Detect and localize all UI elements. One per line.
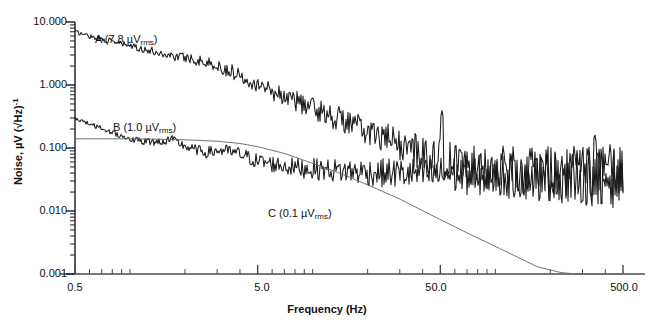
data-series-group bbox=[75, 31, 623, 274]
curve-label-a: A (7.8 µVrms) bbox=[95, 33, 157, 47]
curve-label-c-main: C (0.1 µV bbox=[268, 207, 315, 219]
curve-label-a-tail: ) bbox=[154, 33, 158, 45]
y-axis-title: Noise, µV (√Hz)-1 bbox=[11, 77, 24, 207]
curve-label-c-subscript: rms bbox=[315, 212, 328, 221]
x-tick-label-50: 50.0 bbox=[419, 281, 453, 293]
curve-label-b-subscript: rms bbox=[159, 126, 172, 135]
x-tick-label-500: 500.0 bbox=[603, 281, 645, 293]
curve-label-a-main: A (7.8 µV bbox=[95, 33, 140, 45]
curve-label-b: B (1.0 µVrms) bbox=[113, 121, 176, 135]
curve-label-b-tail: ) bbox=[172, 121, 176, 133]
x-tick-label-0.5: 0.5 bbox=[60, 281, 90, 293]
y-tick-label-0.001: 0.001 bbox=[5, 267, 67, 279]
y-tick-label-10: 10.000 bbox=[5, 15, 67, 27]
curve-label-a-subscript: rms bbox=[140, 38, 153, 47]
axes bbox=[60, 22, 645, 274]
x-axis-title: Frequency (Hz) bbox=[0, 303, 654, 315]
curve-label-c: C (0.1 µVrms) bbox=[268, 207, 332, 221]
y-axis-title-text: Noise, µV (√Hz)-1 bbox=[13, 98, 25, 185]
y-axis-ticks bbox=[66, 22, 75, 274]
x-tick-label-5: 5.0 bbox=[247, 281, 277, 293]
noise-spectrum-figure: 10.000 1.000 0.100 0.010 0.001 0.5 5.0 5… bbox=[0, 0, 654, 326]
plot-canvas bbox=[0, 0, 654, 326]
curve-label-c-tail: ) bbox=[328, 207, 332, 219]
x-axis-ticks bbox=[75, 265, 623, 274]
curve-label-b-main: B (1.0 µV bbox=[113, 121, 159, 133]
